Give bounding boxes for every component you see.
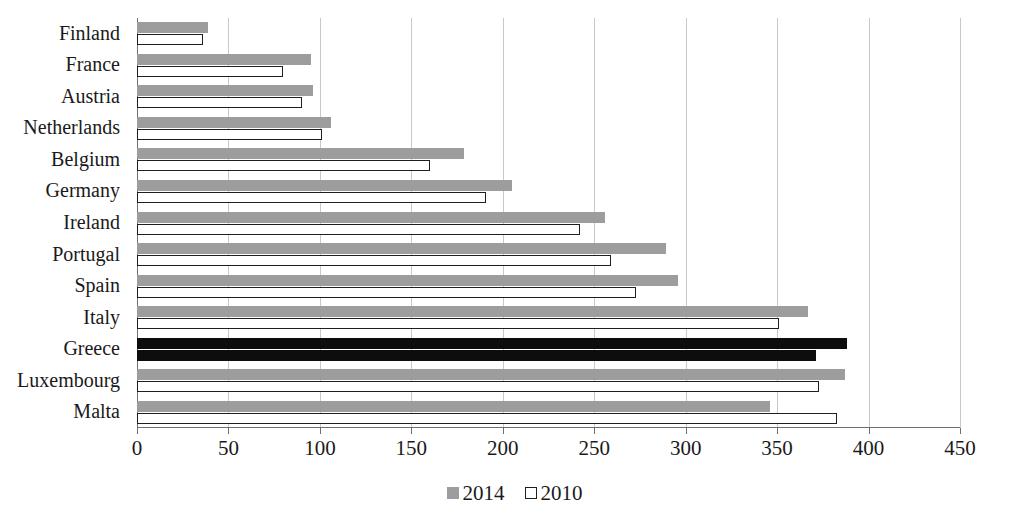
bar-greece-2014	[137, 338, 847, 349]
bar-portugal-2010	[137, 255, 611, 266]
tick-label-400: 400	[853, 436, 885, 460]
gridline-300	[686, 18, 687, 428]
tick-label-100: 100	[304, 436, 336, 460]
chart-legend: 20142010	[0, 482, 1029, 504]
category-label-finland: Finland	[59, 23, 120, 43]
gridline-350	[777, 18, 778, 428]
bar-luxembourg-2010	[137, 381, 819, 392]
tick-mark-50	[228, 428, 229, 434]
legend-item-2010[interactable]: 2010	[525, 482, 583, 504]
bar-malta-2014	[137, 401, 770, 412]
tick-mark-450	[960, 428, 961, 434]
gridline-250	[594, 18, 595, 428]
category-label-netherlands: Netherlands	[23, 117, 120, 137]
tick-mark-250	[594, 428, 595, 434]
bar-luxembourg-2014	[137, 369, 845, 380]
category-label-belgium: Belgium	[51, 149, 120, 169]
tick-label-50: 50	[218, 436, 239, 460]
legend-item-2014[interactable]: 2014	[447, 482, 505, 504]
tick-mark-0	[137, 428, 138, 434]
category-label-malta: Malta	[73, 401, 120, 421]
bar-spain-2010	[137, 287, 636, 298]
legend-swatch-icon-2010	[525, 487, 537, 499]
gridline-450	[960, 18, 961, 428]
category-label-italy: Italy	[83, 307, 120, 327]
category-axis-labels: FinlandFranceAustriaNetherlandsBelgiumGe…	[0, 18, 128, 428]
tick-label-300: 300	[670, 436, 702, 460]
legend-label: 2010	[541, 482, 583, 504]
bar-chart: FinlandFranceAustriaNetherlandsBelgiumGe…	[0, 0, 1029, 529]
category-label-portugal: Portugal	[52, 244, 120, 264]
bar-belgium-2010	[137, 160, 430, 171]
x-axis-ticks: 050100150200250300350400450	[137, 428, 960, 462]
bar-ireland-2014	[137, 212, 605, 223]
category-label-france: France	[66, 54, 120, 74]
bar-portugal-2014	[137, 243, 666, 254]
category-label-austria: Austria	[61, 86, 120, 106]
bar-netherlands-2010	[137, 129, 322, 140]
bar-france-2010	[137, 66, 283, 77]
bar-austria-2014	[137, 85, 313, 96]
bar-germany-2014	[137, 180, 512, 191]
tick-label-250: 250	[578, 436, 610, 460]
bar-netherlands-2014	[137, 117, 331, 128]
tick-label-450: 450	[944, 436, 976, 460]
tick-label-350: 350	[761, 436, 793, 460]
category-label-greece: Greece	[63, 338, 120, 358]
plot-area	[137, 18, 960, 428]
bar-italy-2014	[137, 306, 808, 317]
bar-austria-2010	[137, 97, 302, 108]
tick-mark-300	[686, 428, 687, 434]
tick-label-150: 150	[396, 436, 428, 460]
bar-finland-2014	[137, 22, 208, 33]
tick-label-200: 200	[487, 436, 519, 460]
tick-mark-400	[869, 428, 870, 434]
bar-france-2014	[137, 54, 311, 65]
bar-ireland-2010	[137, 224, 580, 235]
gridline-400	[869, 18, 870, 428]
tick-mark-150	[411, 428, 412, 434]
legend-label: 2014	[463, 482, 505, 504]
bar-belgium-2014	[137, 148, 464, 159]
category-label-luxembourg: Luxembourg	[17, 370, 120, 390]
tick-mark-350	[777, 428, 778, 434]
tick-mark-100	[320, 428, 321, 434]
bar-spain-2014	[137, 275, 678, 286]
bar-finland-2010	[137, 34, 203, 45]
bar-germany-2010	[137, 192, 486, 203]
legend-swatch-icon-2014	[447, 487, 459, 499]
tick-label-0: 0	[132, 436, 143, 460]
category-label-spain: Spain	[74, 275, 120, 295]
bar-italy-2010	[137, 318, 779, 329]
category-label-germany: Germany	[46, 180, 120, 200]
category-label-ireland: Ireland	[63, 212, 120, 232]
bar-malta-2010	[137, 413, 837, 424]
tick-mark-200	[503, 428, 504, 434]
bar-greece-2010	[137, 350, 816, 361]
